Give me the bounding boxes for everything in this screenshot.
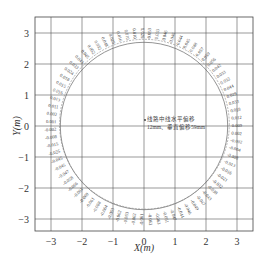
deviation-label: 0.016 [52, 87, 64, 96]
x-tick-label: −2 [77, 236, 88, 247]
annotation-line2: 12mm、垂直偏移59mm [147, 123, 206, 131]
deviation-label: 0.053 [147, 27, 153, 38]
x-tick-label: 2 [204, 236, 209, 247]
deviation-label: -0.008 [45, 134, 58, 141]
deviation-label: 0.046 [161, 29, 168, 41]
deviation-label: 0.033 [228, 99, 240, 107]
deviation-label: 0.029 [226, 91, 238, 99]
deviation-label: 0.013 [50, 95, 62, 103]
circular-deviation-chart: −3−2−10123−3−2−10123 0.0100.0260.0530.03… [0, 0, 272, 269]
deviation-label: 0.033 [154, 28, 161, 40]
deviation-label: 0.009 [232, 123, 243, 128]
deviation-label: 0.012 [231, 115, 242, 121]
y-axis-label: Y(m) [11, 116, 23, 136]
x-tick-label: −1 [108, 236, 119, 247]
deviation-label: 0.016 [116, 31, 124, 43]
deviation-label: -0.047 [169, 208, 178, 221]
deviation-label: -0.062 [114, 209, 122, 222]
deviation-label: 0.010 [124, 29, 131, 41]
y-tick-label: −1 [18, 152, 29, 163]
deviation-label: 0.018 [230, 107, 242, 114]
deviation-label: 0.010 [132, 28, 138, 40]
x-axis-label: X(m) [133, 242, 155, 254]
deviation-label: -0.002 [44, 127, 57, 133]
deviation-label: -0.015 [46, 141, 59, 149]
deviation-label: 0.001 [46, 119, 57, 124]
deviation-label: -0.002 [230, 138, 243, 145]
deviation-label: -0.062 [147, 213, 153, 226]
deviation-label: -0.051 [162, 211, 170, 224]
deviation-label: 0.011 [48, 103, 60, 110]
y-tick-label: 0 [24, 121, 29, 132]
x-tick-label: 1 [173, 236, 178, 247]
deviation-label: -0.004 [228, 145, 241, 153]
y-tick-label: −2 [18, 183, 29, 194]
deviation-label: -0.063 [122, 211, 129, 224]
deviation-label: -0.063 [155, 212, 162, 225]
y-tick-label: 1 [24, 90, 29, 101]
deviation-label: -0.061 [139, 213, 144, 226]
y-tick-label: −3 [18, 214, 29, 225]
y-tick-label: 2 [24, 59, 29, 70]
deviation-label: -0.062 [131, 212, 137, 225]
deviation-label: 0.002 [46, 111, 58, 117]
grid-lines [35, 17, 253, 231]
x-tick-label: 3 [235, 236, 240, 247]
y-tick-label: 3 [24, 28, 29, 39]
deviation-label: 0.026 [140, 28, 145, 39]
x-tick-label: −3 [46, 236, 57, 247]
annotation-line1: 线路中线水平偏移 [147, 115, 195, 123]
deviation-label: 0.002 [231, 130, 242, 136]
